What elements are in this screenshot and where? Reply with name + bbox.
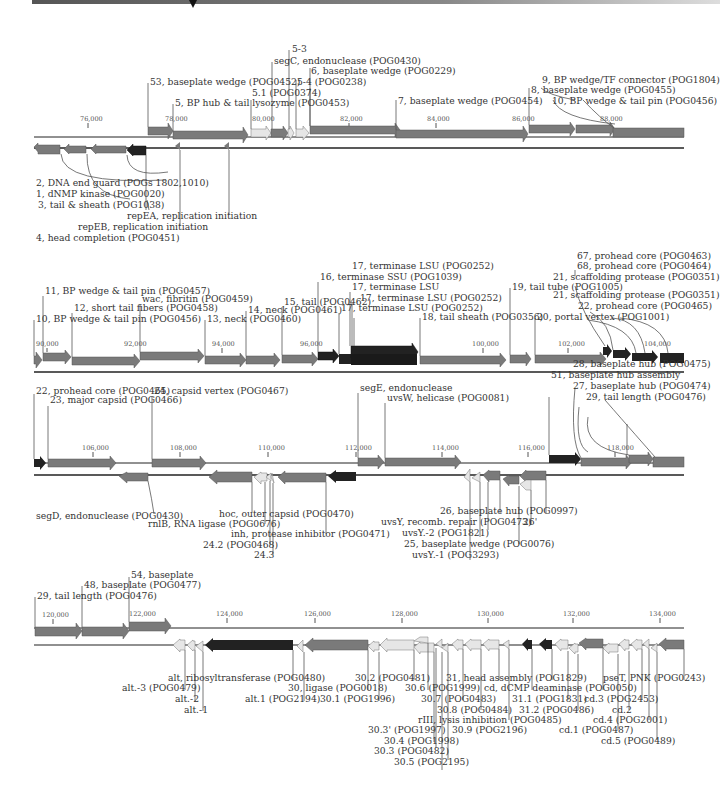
gene-segE-rev[interactable] — [328, 470, 356, 483]
gene-inh[interactable] — [278, 471, 326, 484]
gene-17b[interactable] — [351, 354, 417, 365]
gene-22[interactable] — [34, 456, 46, 470]
gene-30-6[interactable] — [452, 639, 463, 651]
label-29: 29, tail length (POG0476) — [586, 391, 706, 402]
gene-labels: 54, baseplate 48, baseplate (POG0477) 29… — [37, 569, 705, 767]
label-uvsW: uvsW, helicase (POG0081) — [387, 392, 509, 403]
gene-6[interactable] — [310, 123, 400, 137]
gene-cd[interactable] — [579, 638, 603, 650]
label-24-3: 24.3 — [254, 549, 275, 560]
gene-25[interactable] — [503, 475, 519, 486]
gene-31-1[interactable] — [555, 639, 568, 651]
gene-cd5[interactable] — [651, 643, 657, 652]
gene-15[interactable] — [282, 352, 318, 366]
gene-5-1[interactable] — [251, 126, 271, 140]
tick-102000: 102,000 — [558, 340, 585, 348]
gene-10[interactable] — [34, 352, 42, 368]
gene-segE[interactable] — [358, 455, 384, 469]
gene-26-prime[interactable] — [520, 480, 531, 490]
gene-19[interactable] — [510, 352, 531, 366]
gene-30-9[interactable] — [503, 640, 509, 649]
gene-29[interactable] — [629, 452, 653, 466]
gene-30-3[interactable] — [414, 642, 434, 654]
gene-cd2[interactable] — [619, 639, 629, 651]
label-30-6: 30.6 (POG1999) — [405, 682, 480, 693]
gene-hoc[interactable] — [209, 470, 252, 484]
gene-30[interactable] — [305, 638, 368, 652]
gene-27[interactable] — [581, 455, 632, 469]
gene-67[interactable] — [603, 344, 612, 358]
tick-86000: 86,000 — [512, 115, 535, 123]
gene-30-5[interactable] — [442, 643, 448, 652]
gene-pseT[interactable] — [659, 638, 684, 651]
gene-8[interactable] — [529, 122, 575, 136]
gene-7[interactable] — [396, 126, 528, 142]
gene-uvsY-2[interactable] — [472, 472, 480, 482]
label-alt-1: alt.-1 — [184, 704, 208, 715]
label-alt-3: alt.-3 (POG0479) — [122, 682, 201, 693]
gene-12[interactable] — [72, 354, 140, 368]
gene-rIII[interactable] — [522, 638, 532, 651]
label-repEA: repEA, replication initiation — [127, 210, 257, 221]
gene-14[interactable] — [246, 353, 280, 367]
gene-29[interactable] — [35, 623, 82, 639]
gene-6-segC[interactable] — [296, 126, 309, 140]
track-row-1: 76,000 78,000 80,000 82,000 84,000 86,00… — [34, 43, 720, 243]
gene-48[interactable] — [82, 623, 129, 639]
gene-11[interactable] — [43, 350, 71, 364]
gene-repEA[interactable] — [224, 142, 229, 150]
label-5: 5, BP hub & tail lysozyme (POG0453) — [175, 97, 349, 108]
gene-4[interactable] — [127, 144, 146, 156]
label-5-4: 5-4 (POG0238) — [297, 76, 366, 87]
gene-30-4[interactable] — [436, 639, 442, 648]
label-10: 10, BP wedge & tail pin (POG0456) — [552, 95, 717, 106]
gene-18[interactable] — [420, 353, 506, 367]
gene-30-1[interactable] — [368, 641, 379, 652]
gene-wac[interactable] — [140, 349, 204, 363]
tick-84000: 84,000 — [427, 115, 450, 123]
gene-17a[interactable] — [339, 354, 351, 364]
gene-cd3[interactable] — [631, 639, 642, 651]
gene-54[interactable] — [129, 618, 171, 634]
label-4: 4, head completion (POG0451) — [36, 232, 180, 243]
tick-100000: 100,000 — [472, 340, 499, 348]
label-uvsY-2: uvsY.-2 (POG1821) — [402, 527, 489, 538]
gene-30-8[interactable] — [483, 639, 499, 651]
gene-uvsY-1[interactable] — [464, 469, 470, 482]
gene-5-4[interactable] — [271, 126, 288, 140]
track-row-3: 106,000 108,000 110,000 112,000 114,000 … — [34, 358, 711, 560]
gene-3[interactable] — [91, 144, 126, 154]
gene-cd4[interactable] — [643, 639, 649, 649]
label-17b: 17, terminase LSU — [352, 281, 440, 292]
label-26-prime: 26' — [523, 516, 537, 527]
gene-24[interactable] — [152, 456, 206, 470]
tick-88000: 88,000 — [600, 115, 623, 123]
gene-1[interactable] — [34, 143, 60, 154]
gene-31[interactable] — [539, 638, 552, 651]
gene-alt-2[interactable] — [187, 640, 195, 651]
gene-10[interactable] — [613, 128, 684, 137]
gene-uvsY[interactable] — [483, 470, 500, 482]
gene-28[interactable] — [653, 457, 684, 467]
gene-23[interactable] — [48, 456, 116, 470]
gene-30-2[interactable] — [380, 638, 414, 652]
gene-alt1[interactable] — [297, 640, 303, 652]
gene-2[interactable] — [64, 144, 86, 154]
gene-51[interactable] — [549, 452, 581, 466]
label-27: 27, baseplate hub (POG0474) — [573, 380, 711, 391]
track-row-2: 90,000 92,000 94,000 96,000 100,000 102,… — [34, 250, 720, 372]
gene-alt-1[interactable] — [196, 641, 203, 652]
gene-26[interactable] — [520, 470, 546, 482]
gene-segD[interactable] — [119, 472, 148, 483]
gene-5[interactable] — [173, 127, 248, 143]
tick-116000: 116,000 — [518, 444, 545, 452]
gene-alt-3[interactable] — [173, 639, 185, 652]
gene-repEB[interactable] — [175, 142, 180, 150]
label-26: 26, baseplate hub (POG0997) — [440, 505, 578, 516]
gene-13[interactable] — [205, 353, 246, 367]
gene-uvsW[interactable] — [385, 455, 461, 469]
gene-alt[interactable] — [205, 638, 293, 652]
gene-16[interactable] — [318, 349, 339, 363]
gene-30-7[interactable] — [465, 639, 481, 651]
gene-30-3p[interactable] — [414, 637, 428, 643]
